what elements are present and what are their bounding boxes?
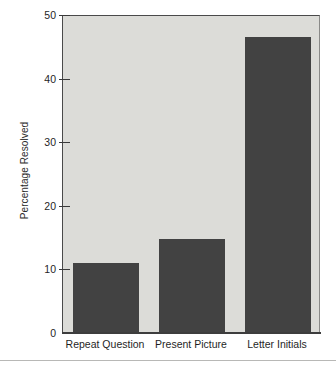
y-axis-tick-mark bbox=[59, 142, 70, 143]
bar-series bbox=[63, 16, 319, 333]
y-axis-title: Percentage Resolved bbox=[14, 0, 36, 340]
bar-chart-figure: Percentage Resolved 01020304050 Repeat Q… bbox=[0, 0, 336, 368]
x-axis-tick-label: Repeat Question bbox=[62, 337, 148, 351]
x-axis-line bbox=[62, 332, 321, 334]
x-axis-tick-labels: Repeat QuestionPresent PictureLetter Ini… bbox=[62, 337, 320, 353]
y-axis-tick-label: 10 bbox=[34, 264, 56, 274]
x-axis-tick-label: Present Picture bbox=[148, 337, 234, 351]
y-axis-tick-label: 40 bbox=[34, 74, 56, 84]
page-bottom-rule bbox=[0, 360, 336, 361]
y-axis-tick-label: 50 bbox=[34, 10, 56, 20]
plot-area bbox=[62, 15, 320, 333]
y-axis-tick-mark bbox=[59, 206, 70, 207]
y-axis-tick-label: 0 bbox=[34, 328, 56, 338]
y-axis-tick-label: 30 bbox=[34, 137, 56, 147]
y-axis-tick-mark bbox=[59, 15, 70, 16]
y-axis-tick-mark bbox=[59, 269, 70, 270]
bar bbox=[245, 37, 311, 333]
y-axis-tick-label: 20 bbox=[34, 201, 56, 211]
bar bbox=[159, 239, 225, 333]
y-axis-tick-labels: 01020304050 bbox=[34, 0, 56, 368]
bar bbox=[73, 263, 139, 333]
x-axis-tick-label: Letter Initials bbox=[234, 337, 320, 351]
y-axis-tick-mark bbox=[59, 79, 70, 80]
y-axis-title-text: Percentage Resolved bbox=[20, 121, 31, 219]
